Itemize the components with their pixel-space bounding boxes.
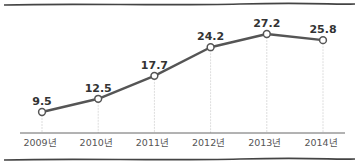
x-axis-tick-labels: 2009년2010년2011년2012년2013년2014년 <box>23 137 337 148</box>
value-labels: 9.512.517.724.227.225.8 <box>32 17 336 108</box>
value-label: 9.5 <box>32 95 52 108</box>
x-tick-label: 2014년 <box>304 137 337 148</box>
x-tick-label: 2011년 <box>136 137 169 148</box>
bottom-border <box>4 158 355 160</box>
x-tick-label: 2013년 <box>248 137 281 148</box>
value-label: 12.5 <box>85 82 112 95</box>
x-tick-label: 2012년 <box>192 137 225 148</box>
value-label: 27.2 <box>253 17 280 30</box>
x-tick-label: 2010년 <box>80 137 113 148</box>
data-point-marker <box>320 37 327 44</box>
data-point-marker <box>151 72 158 79</box>
value-label: 24.2 <box>197 30 224 43</box>
data-point-marker <box>39 109 46 116</box>
data-point-marker <box>95 95 102 102</box>
data-point-marker <box>263 31 270 38</box>
value-label: 25.8 <box>309 23 336 36</box>
line-chart: 9.512.517.724.227.225.8 2009년2010년2011년2… <box>0 0 359 165</box>
value-label: 17.7 <box>141 59 168 72</box>
data-point-marker <box>207 44 214 51</box>
series-line <box>42 34 323 112</box>
top-border <box>4 3 355 5</box>
x-tick-label: 2009년 <box>23 137 56 148</box>
